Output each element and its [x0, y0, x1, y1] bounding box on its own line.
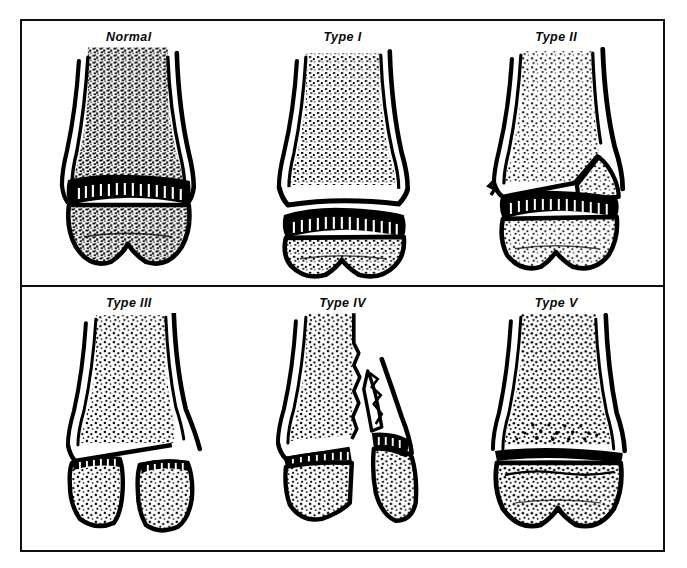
panel-type-4: Type IV [236, 287, 450, 550]
panel-type-2: Type II [449, 21, 663, 285]
panel-label-type-1: Type I [236, 30, 450, 44]
panel-label-type-3: Type III [22, 296, 236, 310]
bone-illustration-type-5 [449, 313, 663, 545]
bone-illustration-normal [22, 47, 236, 279]
panel-row-bottom: Type III [22, 285, 663, 550]
panel-label-type-2: Type II [449, 30, 663, 44]
panel-label-type-5: Type V [449, 296, 663, 310]
bone-illustration-type-4 [236, 313, 450, 545]
panel-type-3: Type III [22, 287, 236, 550]
panel-type-1: Type I [236, 21, 450, 285]
panel-label-normal: Normal [22, 30, 236, 44]
bone-illustration-type-3 [22, 313, 236, 545]
figure-frame: Normal [20, 19, 665, 552]
panel-label-type-4: Type IV [236, 296, 450, 310]
panel-row-top: Normal [22, 21, 663, 285]
bone-illustration-type-2 [449, 47, 663, 279]
bone-illustration-type-1 [236, 47, 450, 279]
panel-type-5: Type V [449, 287, 663, 550]
panel-normal: Normal [22, 21, 236, 285]
